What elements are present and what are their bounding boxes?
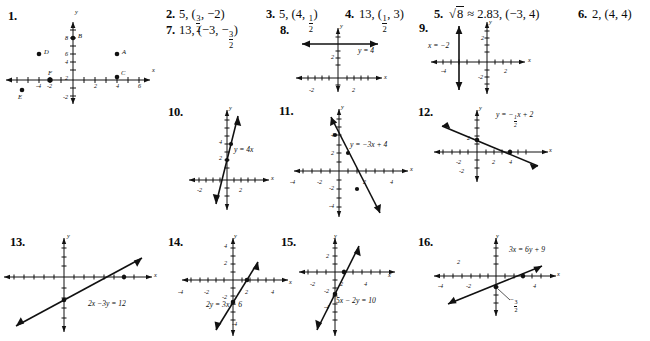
answer-3-suffix: ) <box>313 7 317 21</box>
graph-12-eq-frac-denominator: 2 <box>514 121 517 128</box>
graph-15-ytick--2: -2 <box>324 287 329 294</box>
problem-number-10: 10. <box>168 105 183 120</box>
graph-1-x-axis-label: x <box>152 66 155 73</box>
graph-13-x-axis-label: x <box>154 271 157 278</box>
graph-11-xtick-4: 4 <box>390 178 393 185</box>
graph-15-y-axis-label: y <box>334 232 337 239</box>
answer-4-suffix: , 3) <box>387 7 404 21</box>
graph-1-ytick-6: 6 <box>65 50 68 57</box>
graph-11-ytick--2: -2 <box>329 184 334 191</box>
graph-9 <box>425 18 540 98</box>
answer-7-frac-denominator: 2 <box>229 39 233 49</box>
graph-1 <box>0 8 165 106</box>
graph-12-x-axis-label: x <box>549 146 552 153</box>
graph-1-xtick--4: -4 <box>36 82 41 89</box>
graph-12-eq-suffix: x + 2 <box>517 110 533 119</box>
graph-10-y-axis-label: y <box>229 104 232 111</box>
graph-14-xtick-2: 2 <box>245 288 248 295</box>
graph-15-xtick-2: 2 <box>340 280 343 287</box>
graph-13-equation-label: 2x −3y = 12 <box>88 299 126 308</box>
graph-1-point-label-C: C <box>121 69 125 76</box>
graph-11-y-axis-label: y <box>341 103 344 110</box>
graph-1-xtick--2: -2 <box>47 82 52 89</box>
graph-1-xtick-6: 6 <box>138 82 141 89</box>
graph-10-x-axis-label: x <box>271 174 274 181</box>
graph-16-point-label-numerator: 3 <box>514 299 517 306</box>
answer-3-prefix: 5, (4, <box>279 7 308 21</box>
problem-number-2: 2. <box>166 7 175 22</box>
graph-8 <box>290 22 400 94</box>
graph-16-point-label: −32 <box>510 296 518 313</box>
answer-7-suffix: ) <box>234 23 238 37</box>
graph-15-xtick--2: -2 <box>310 280 315 287</box>
graph-1-point-label-E: E <box>18 93 22 100</box>
graph-15-xtick-4: 4 <box>364 280 367 287</box>
graph-16-point-label-fraction: 32 <box>514 299 517 313</box>
graph-15-equation-label: 5x − 2y = 10 <box>336 296 376 305</box>
graph-16-xtick-4: 4 <box>533 282 536 289</box>
graph-9-x-axis-label: x <box>528 56 531 63</box>
problem-number-7: 7. <box>166 23 175 38</box>
graph-10-ytick-2: 2 <box>219 154 222 161</box>
answer-7-frac-numerator: 3 <box>229 30 233 39</box>
answer-7-prefix: 13, (−3, − <box>179 23 229 37</box>
graph-9-xtick-2: 2 <box>504 67 507 74</box>
graph-8-xtick-2: 2 <box>352 86 355 93</box>
graph-12-xtick--2: -2 <box>456 158 461 165</box>
graph-16-point-label-denominator: 2 <box>514 306 517 314</box>
graph-10-xtick-2: 2 <box>239 186 242 193</box>
graph-1-xtick-4: 4 <box>116 82 119 89</box>
graph-12-ytick--2: -2 <box>459 167 464 174</box>
graph-12-equation-label: y = −12x + 2 <box>496 110 533 129</box>
graph-10 <box>185 104 275 214</box>
answer-2-prefix: 5, ( <box>179 7 196 21</box>
answer-7-fraction: 32 <box>229 30 233 49</box>
graph-12-eq-prefix: y = − <box>496 110 513 119</box>
graph-12-ytick-2: 2 <box>467 134 470 141</box>
graph-1-point-label-A: A <box>122 48 126 55</box>
graph-14-xtick--4: -4 <box>178 288 183 295</box>
graph-16-x-axis-label: x <box>557 270 560 277</box>
problem-number-15: 15. <box>281 235 296 250</box>
graph-9-y-axis-label: y <box>489 18 492 25</box>
answer-6: 2, (4, 4) <box>592 7 632 22</box>
graph-11-ytick-2: 2 <box>331 149 334 156</box>
graph-14-ytick-4: 4 <box>224 242 227 249</box>
graph-10-ytick-4: 4 <box>219 138 222 145</box>
graph-11-xtick-2: 2 <box>363 178 366 185</box>
graph-11-xtick--4: -4 <box>290 178 295 185</box>
problem-number-3: 3. <box>266 7 275 22</box>
graph-12-y-axis-label: y <box>479 104 482 111</box>
graph-14-ytick--2: -2 <box>222 293 227 300</box>
graph-14-ytick-2: 2 <box>224 259 227 266</box>
graph-10-equation-label: y = 4x <box>234 145 253 154</box>
graph-16-equation-label: 3x = 6y + 9 <box>509 245 545 254</box>
graph-8-y-axis-label: y <box>340 22 343 29</box>
graph-1-ytick-4: 4 <box>65 58 68 65</box>
problem-number-4: 4. <box>345 7 354 22</box>
graph-1-point-label-F: F <box>48 69 52 76</box>
graph-11-ytick--4: -4 <box>329 202 334 209</box>
graph-12-xtick-2: 2 <box>492 158 495 165</box>
graph-11-x-axis-label: x <box>410 165 413 172</box>
graph-16-xtick--4: -4 <box>438 282 443 289</box>
graph-9-equation-label: x = −2 <box>428 41 449 50</box>
graph-14-ytick--4: -4 <box>232 320 237 327</box>
graph-16 <box>430 232 570 322</box>
graph-14-equation-label: 2y = 3x − 6 <box>206 300 242 309</box>
graph-8-ytick-2: 2 <box>331 53 334 60</box>
graph-8-equation-label: y = 4 <box>358 46 374 55</box>
graph-14-x-axis-label: x <box>289 278 292 285</box>
graph-15-ytick-2: 2 <box>326 252 329 259</box>
graph-11-ytick-4: 4 <box>331 131 334 138</box>
graph-16-xtick--2: -2 <box>466 282 471 289</box>
graph-13 <box>0 232 160 338</box>
graph-1-point-label-D: D <box>44 48 49 55</box>
graph-1-ytick--2: -2 <box>63 93 68 100</box>
graph-11-xtick--2: -2 <box>317 178 322 185</box>
answer-key-page: 1. <box>0 0 650 341</box>
graph-1-xtick-2: 2 <box>94 82 97 89</box>
graph-16-point-label-sign: − <box>510 296 514 304</box>
graph-16-y-axis-label: y <box>496 232 499 239</box>
problem-number-6: 6. <box>578 7 587 22</box>
